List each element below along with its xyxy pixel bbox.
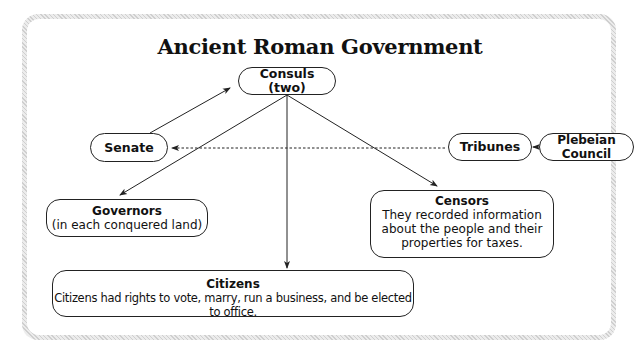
node-senate: Senate xyxy=(90,133,168,162)
node-consuls: Consuls (two) xyxy=(238,67,336,95)
arrow-consuls-censors xyxy=(287,95,437,186)
node-governors-label: Governors xyxy=(47,204,207,218)
node-censors-desc-line-2: about the people and their xyxy=(371,222,553,236)
node-censors: Censors They recorded information about … xyxy=(370,190,554,258)
node-senate-label: Senate xyxy=(104,141,153,155)
node-censors-desc-line-1: They recorded information xyxy=(371,208,553,222)
node-censors-label: Censors xyxy=(371,194,553,208)
arrow-senate-consuls xyxy=(150,88,230,133)
node-tribunes: Tribunes xyxy=(448,133,532,161)
node-censors-desc-line-3: properties for taxes. xyxy=(371,236,553,250)
node-plebeian-council-label: Plebeian Council xyxy=(540,133,633,161)
node-tribunes-label: Tribunes xyxy=(460,140,520,154)
node-citizens: Citizens Citizens had rights to vote, ma… xyxy=(52,270,414,317)
node-consuls-label: Consuls (two) xyxy=(239,67,335,95)
node-plebeian-council: Plebeian Council xyxy=(539,133,634,161)
node-citizens-label: Citizens xyxy=(53,277,413,291)
node-governors: Governors (in each conquered land) xyxy=(46,199,208,237)
node-governors-desc: (in each conquered land) xyxy=(47,218,207,232)
node-citizens-desc: Citizens had rights to vote, marry, run … xyxy=(53,291,413,319)
